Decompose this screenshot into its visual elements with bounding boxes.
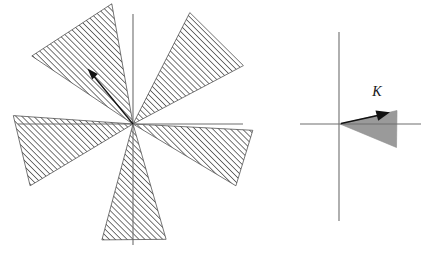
cone-K (340, 111, 397, 148)
cone-label-K: K (371, 84, 382, 99)
sector-lower-right (133, 124, 253, 186)
sector-upper-right (133, 13, 243, 124)
cone-diagram-svg: K (0, 0, 437, 261)
figure-root: K (0, 0, 437, 261)
left-panel (13, 4, 253, 245)
sector-bottom (102, 124, 166, 240)
right-panel: K (300, 32, 421, 221)
sector-left (13, 116, 133, 186)
